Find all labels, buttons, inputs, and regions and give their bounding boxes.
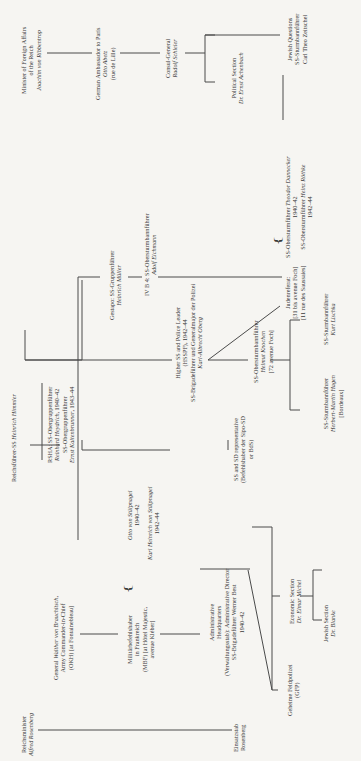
- node-mueller: Gestapo: SS-Gruppenführer Heinrich Mülle…: [108, 251, 123, 320]
- node-brauchitsch: General Walther von Brauchitsch, Army Co…: [52, 596, 74, 680]
- node-judenreferat: Judenreferat: [31 bis avenue Foch] [11 r…: [284, 265, 306, 320]
- node-hsspf: Higher SS and Police Leader (HSSPF), 194…: [174, 284, 204, 402]
- node-rsha: RSHA: SS-Obergruppenführer Reinhard Heyd…: [46, 387, 76, 463]
- node-abetz: German Ambassador to Paris Otto Abetz (r…: [94, 28, 116, 100]
- node-karl-stuelpnagel: Karl Heinrich von Stülpnagel 1942–44: [146, 487, 161, 560]
- node-zeitschel: Jewish Questions SS-Sturmbannführer Carl…: [286, 14, 308, 65]
- brace-dannecker-rothke: {: [274, 235, 281, 246]
- node-einsatzstab: Einsatzstab Rosenberg: [232, 724, 247, 752]
- node-ribbentrop: Minister of Foreign Affairs of the Reich…: [20, 27, 42, 94]
- node-dannecker: SS-Obersturmführer Theodor Dannecker 194…: [284, 156, 314, 258]
- node-eichmann: IV B 4: SS-Obersturmbannführer Adolf Eic…: [143, 213, 158, 296]
- node-mbf: Militärbefehlshaber in Frankreich (MBF) …: [126, 607, 156, 672]
- node-himmler: Reichsführer-SS Heinrich Himmler: [10, 394, 17, 482]
- node-jewish-section: Jewish Section Dr. Blanke: [322, 605, 337, 642]
- node-administrative-hq: Administrative Headquarters (Verwaltungs…: [208, 569, 245, 676]
- node-lischka: SS-Sturmbannführer Kurt Lischka: [322, 294, 337, 345]
- node-ss-sd-representative: SS and SD representative (Befehlshaber d…: [232, 416, 254, 483]
- node-achenbach: Political Section Dr. Ernst Achenbach: [230, 52, 245, 104]
- node-otto-stuelpnagel: Otto von Stülpnagel 1940–42: [126, 491, 141, 541]
- node-knochen: SS-Obersturmbannführer Helmut Knochen [7…: [252, 320, 274, 383]
- brace-stuelpnagel: {: [124, 583, 131, 594]
- node-gfp: Geheime Feldpolizei (GFP): [286, 664, 301, 716]
- node-rosenberg: Reichsminister Alfred Rosenberg: [20, 713, 35, 756]
- node-economic-section: Economic Section Dr. Elmar Michel: [288, 579, 303, 624]
- node-schleier: Consul-General Rudolf Schleier: [164, 39, 179, 78]
- node-hagen: SS-Sturmbannführer Herbert-Martin Hagen …: [322, 375, 344, 432]
